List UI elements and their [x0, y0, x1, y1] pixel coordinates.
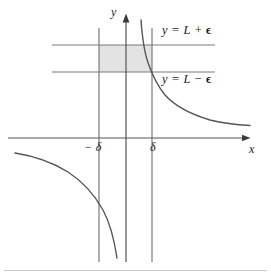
curve-lower-left-branch	[15, 153, 117, 258]
label-upper-bound: y = L + ϵ	[162, 24, 212, 37]
limit-figure: y = L + ϵ y = L − ϵ − δ δ x y	[0, 0, 271, 276]
label-y-axis: y	[111, 6, 117, 18]
label-lower-bound: y = L − ϵ	[162, 73, 212, 86]
figure-canvas	[0, 0, 271, 276]
label-neg-delta: − δ	[84, 141, 102, 153]
label-x-axis: x	[249, 143, 255, 155]
label-pos-delta: δ	[150, 141, 156, 153]
